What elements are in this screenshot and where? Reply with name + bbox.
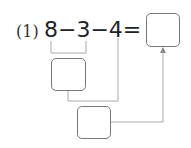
step2-box[interactable] (77, 106, 111, 139)
bracket-8-3 (51, 41, 86, 53)
step1-box[interactable] (51, 58, 86, 91)
arrow-up-icon (160, 47, 166, 53)
answer-box[interactable] (146, 13, 180, 47)
connector-step2-to-answer (111, 50, 163, 122)
